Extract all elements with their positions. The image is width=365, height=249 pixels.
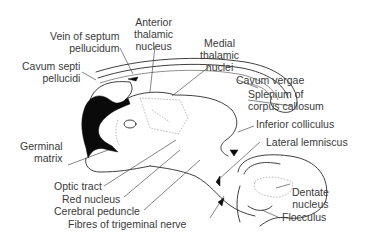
label-line: pellucidum	[50, 42, 119, 54]
label-line: Medial	[200, 37, 239, 49]
label-dentate-nucleus: Dentate nucleus	[292, 186, 329, 210]
anterior-thalamic-dotted	[140, 98, 188, 134]
lemniscus-mark	[216, 176, 220, 186]
label-fibres-of-trigeminal-nerve: Fibres of trigeminal nerve	[68, 218, 186, 230]
label-line: corpus callosum	[248, 100, 324, 112]
flocculus-outline	[248, 206, 272, 211]
label-cerebral-peduncle: Cerebral peduncle	[54, 205, 140, 217]
label-germinal-matrix: Germinal matrix	[20, 140, 63, 164]
label-line: pellucidi	[22, 72, 80, 84]
leader-inferior-colliculus	[238, 126, 254, 132]
label-line: Vein of septum	[50, 30, 119, 42]
label-line: matrix	[20, 152, 63, 164]
label-line: Dentate	[292, 186, 329, 198]
label-red-nucleus: Red nucleus	[62, 193, 120, 205]
label-flocculus: Flocculus	[282, 211, 326, 223]
label-line: Anterior	[134, 16, 173, 28]
label-line: Cavum septi	[22, 60, 80, 72]
label-line: nucleus	[292, 198, 329, 210]
label-line: Splenium of	[248, 88, 324, 100]
brainstem-outline	[150, 166, 255, 216]
label-line: Germinal	[20, 140, 63, 152]
basal-outline	[86, 158, 150, 172]
leader-trigeminal	[210, 196, 224, 218]
trigeminal-mark	[218, 198, 224, 206]
leader-dentate	[276, 184, 290, 188]
thalamic-dotted-line	[152, 110, 170, 122]
leader-cerebral-peduncle	[144, 160, 200, 210]
label-inferior-colliculus: Inferior colliculus	[256, 118, 334, 130]
thalamus-top	[128, 92, 232, 110]
label-lateral-lemniscus: Lateral lemniscus	[266, 136, 348, 148]
leader-cavum-septi	[82, 72, 96, 80]
label-line: nuclei	[200, 61, 239, 73]
leader-lateral-lemniscus	[218, 142, 260, 180]
label-vein-septum-pellucidum: Vein of septum pellucidum	[50, 30, 119, 54]
leader-red-nucleus	[124, 150, 180, 197]
inferior-colliculus-mark	[230, 150, 238, 156]
label-optic-tract: Optic tract	[54, 180, 102, 192]
cerebellum-inner	[244, 162, 280, 174]
small-oval	[124, 120, 136, 128]
label-splenium-of-corpus-callosum: Splenium of corpus callosum	[248, 88, 324, 112]
label-cavum-vergae: Cavum vergae	[236, 74, 304, 86]
label-line: nucleus	[134, 40, 173, 52]
label-anterior-thalamic-nucleus: Anterior thalamic nucleus	[134, 16, 173, 52]
anatomy-diagram: Vein of septum pellucidum Anterior thala…	[0, 0, 365, 249]
label-medial-thalamic-nuclei: Medial thalamic nuclei	[200, 37, 239, 73]
leader-flocculus	[262, 210, 280, 218]
label-line: thalamic	[200, 49, 239, 61]
leader-optic-tract	[104, 140, 176, 186]
leader-anterior-thalamic	[150, 46, 155, 92]
vein-septum-mark	[128, 77, 138, 81]
label-line: thalamic	[134, 28, 173, 40]
peduncle-line	[237, 186, 240, 222]
germinal-matrix-fill	[82, 96, 130, 158]
label-cavum-septi-pellucidi: Cavum septi pellucidi	[22, 60, 80, 84]
dotted-arc	[116, 120, 120, 146]
tectum-outline	[221, 110, 237, 156]
leader-vein-septum	[120, 48, 133, 74]
dentate-dotted	[254, 177, 292, 197]
